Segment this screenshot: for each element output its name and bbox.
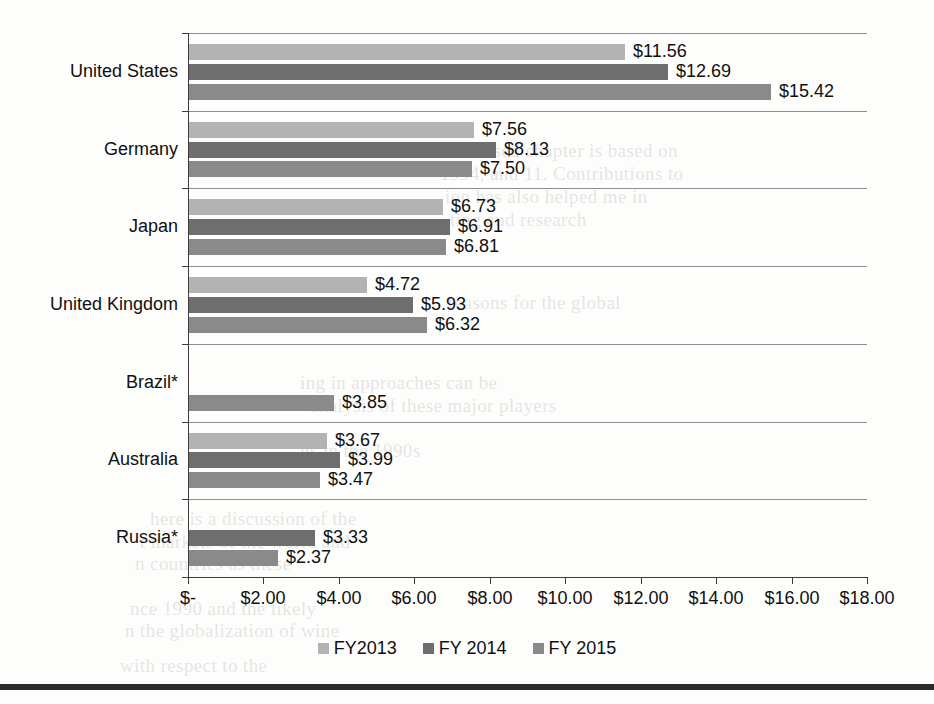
bar-fy2013-australia xyxy=(189,433,327,449)
value-axis-tick-label: $6.00 xyxy=(391,588,436,609)
legend-item-fy2014[interactable]: FY 2014 xyxy=(423,638,507,659)
value-axis-tick-label: $12.00 xyxy=(613,588,668,609)
value-axis-tick xyxy=(414,578,415,584)
scanned-page-background: is used chapter is based on1994, and 11.… xyxy=(0,0,934,704)
bar-fy2014-australia xyxy=(189,452,340,468)
category-axis-line xyxy=(188,577,868,578)
category-axis-tick xyxy=(182,344,189,345)
value-axis-tick-label: $16.00 xyxy=(764,588,819,609)
category-axis-tick xyxy=(182,266,189,267)
bar-fy2014-unitedstates xyxy=(189,64,668,80)
category-label-germany: Germany xyxy=(2,139,178,160)
bar-value-label: $6.81 xyxy=(454,238,499,254)
bar-chart-figure: United StatesGermanyJapanUnited KingdomB… xyxy=(0,0,934,690)
category-gridline xyxy=(188,33,867,34)
bar-fy2015-australia xyxy=(189,472,320,488)
value-axis-tick-label: $18.00 xyxy=(839,588,894,609)
legend-label: FY2013 xyxy=(334,638,397,659)
category-axis-labels: United StatesGermanyJapanUnited KingdomB… xyxy=(0,0,178,600)
category-label-russia: Russia* xyxy=(2,527,178,548)
bar-value-label: $11.56 xyxy=(633,43,687,59)
value-axis-tick xyxy=(792,578,793,584)
category-gridline xyxy=(188,188,867,189)
legend-swatch-icon xyxy=(533,643,544,654)
value-axis-tick xyxy=(716,578,717,584)
value-axis-tick-label: $- xyxy=(180,588,196,609)
legend-item-fy2013[interactable]: FY2013 xyxy=(318,638,397,659)
bar-value-label: $15.42 xyxy=(779,83,834,99)
bar-value-label: $6.32 xyxy=(435,316,480,332)
bar-value-label: $6.91 xyxy=(458,218,503,234)
category-gridline xyxy=(188,499,867,500)
bar-fy2014-unitedkingdom xyxy=(189,297,413,313)
category-label-brazil: Brazil* xyxy=(2,372,178,393)
bar-fy2013-germany xyxy=(189,122,474,138)
bar-value-label: $7.56 xyxy=(482,121,527,137)
value-axis-tick xyxy=(339,578,340,584)
footer-rule xyxy=(0,684,934,690)
bar-fy2013-unitedkingdom xyxy=(189,277,367,293)
legend-label: FY 2015 xyxy=(549,638,617,659)
bar-fy2015-germany xyxy=(189,161,472,177)
legend-swatch-icon xyxy=(318,643,329,654)
category-label-australia: Australia xyxy=(2,449,178,470)
value-axis-tick-label: $14.00 xyxy=(688,588,743,609)
bar-fy2015-unitedstates xyxy=(189,84,771,100)
category-axis-tick xyxy=(182,188,189,189)
legend-swatch-icon xyxy=(423,643,434,654)
value-axis-tick xyxy=(641,578,642,584)
bar-value-label: $3.33 xyxy=(323,529,368,545)
bar-fy2014-russia xyxy=(189,530,315,546)
value-axis-tick xyxy=(565,578,566,584)
value-axis-tick xyxy=(867,578,868,584)
bar-value-label: $6.73 xyxy=(451,198,496,214)
category-axis-tick xyxy=(182,499,189,500)
bar-fy2013-unitedstates xyxy=(189,44,625,60)
bar-value-label: $3.47 xyxy=(328,471,373,487)
bar-fy2015-russia xyxy=(189,550,278,566)
category-axis-tick xyxy=(182,111,189,112)
bar-value-label: $7.50 xyxy=(480,160,525,176)
category-label-japan: Japan xyxy=(2,216,178,237)
chart-legend: FY2013FY 2014FY 2015 xyxy=(0,638,934,659)
value-axis-tick xyxy=(188,578,189,584)
bar-fy2013-japan xyxy=(189,199,443,215)
category-gridline xyxy=(188,344,867,345)
value-axis-tick-label: $2.00 xyxy=(240,588,285,609)
bar-value-label: $2.37 xyxy=(286,549,331,565)
category-gridline xyxy=(188,266,867,267)
bar-value-label: $4.72 xyxy=(375,276,420,292)
category-label-unitedkingdom: United Kingdom xyxy=(2,294,178,315)
category-label-unitedstates: United States xyxy=(2,61,178,82)
value-axis-tick xyxy=(263,578,264,584)
category-axis-tick xyxy=(182,33,189,34)
bar-value-label: $8.13 xyxy=(504,141,549,157)
bar-fy2015-unitedkingdom xyxy=(189,317,427,333)
value-axis-tick xyxy=(490,578,491,584)
bar-value-label: $5.93 xyxy=(421,296,466,312)
category-gridline xyxy=(188,422,867,423)
value-axis-tick-label: $4.00 xyxy=(316,588,361,609)
bar-value-label: $3.85 xyxy=(342,394,387,410)
bar-fy2015-japan xyxy=(189,239,446,255)
bar-fy2014-germany xyxy=(189,142,496,158)
legend-item-fy2015[interactable]: FY 2015 xyxy=(533,638,617,659)
value-axis-tick-label: $10.00 xyxy=(537,588,592,609)
category-gridline xyxy=(188,111,867,112)
bar-fy2015-brazil xyxy=(189,395,334,411)
bar-value-label: $12.69 xyxy=(676,63,731,79)
bar-value-label: $3.99 xyxy=(348,451,393,467)
bar-value-label: $3.67 xyxy=(335,432,380,448)
legend-label: FY 2014 xyxy=(439,638,507,659)
category-axis-tick xyxy=(182,422,189,423)
bar-fy2014-japan xyxy=(189,219,450,235)
value-axis-tick-label: $8.00 xyxy=(467,588,512,609)
